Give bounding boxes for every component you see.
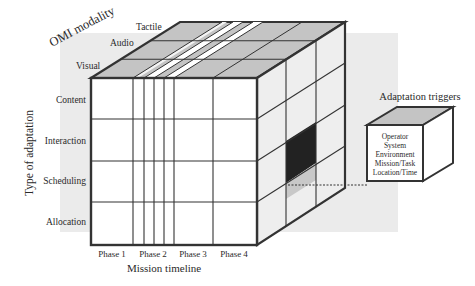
phase-label-4: Phase 4 [220,249,248,259]
adaptation-label-allocation: Allocation [46,217,86,227]
trigger-item-mission-task: Mission/Task [375,159,416,168]
triggers-title: Adaptation triggers [379,91,460,102]
trigger-item-environment: Environment [375,150,415,159]
phase-label-3: Phase 3 [179,249,207,259]
modality-label-tactile: Tactile [136,22,162,32]
trigger-item-system: System [384,141,406,150]
adaptation-cube-diagram: OMI modality Tactile Audio Visual Type o… [0,0,475,286]
adaptation-label-interaction: Interaction [45,136,86,146]
modality-label-audio: Audio [110,38,134,48]
phase-label-1: Phase 1 [98,249,126,259]
trigger-item-location-time: Location/Time [373,168,418,177]
phase-label-2: Phase 2 [139,249,167,259]
timeline-axis-title: Mission timeline [127,262,201,274]
adaptation-label-scheduling: Scheduling [43,176,86,186]
modality-label-visual: Visual [76,61,101,71]
adaptation-axis-title: Type of adaptation [23,110,36,196]
adaptation-label-content: Content [56,95,86,105]
trigger-item-operator: Operator [382,132,409,141]
